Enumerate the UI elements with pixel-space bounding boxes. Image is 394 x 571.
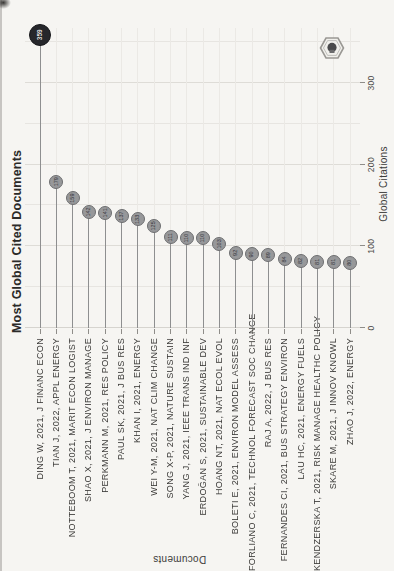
value-gridline (25, 82, 360, 83)
value-gridline (25, 123, 360, 124)
doc-label: PAUL SK, 2021, J BUS RES (116, 338, 126, 571)
doc-label: WEI Y-M, 2021, NAT CLIM CHANGE (149, 338, 159, 571)
hexagon-logo (319, 35, 345, 61)
x-axis-label: Global Citations (378, 146, 389, 221)
lollipop-stem (350, 263, 351, 328)
doc-label: SONG X-P, 2021, NATURE SUSTAIN (165, 338, 175, 571)
doc-label: FORLIANO C, 2021, TECHNOL FORECAST SOC C… (247, 338, 257, 571)
category-tick (56, 329, 57, 334)
doc-label: DING W, 2021, J FINANC ECON (35, 338, 45, 571)
doc-label: PERKMANN M, 2021, RES POLICY (100, 338, 110, 571)
lollipop-stem (72, 198, 73, 328)
doc-label: FERNANDES CI, 2021, BUS STRATEGY ENVIRON (279, 338, 289, 571)
citation-dot: 92 (229, 246, 243, 260)
category-tick (333, 329, 334, 334)
value-tick-label: 300 (366, 75, 376, 90)
lollipop-stem (203, 238, 204, 328)
category-tick (301, 329, 302, 334)
doc-label: ZHAO J, 2022, ENERGY (345, 338, 355, 571)
category-tick (72, 329, 73, 334)
citation-dot: 110 (196, 231, 210, 245)
doc-label: YANG J, 2021, IEEE TRANS IND INF (181, 338, 191, 571)
lollipop-stem (317, 262, 318, 328)
lollipop-stem (88, 212, 89, 328)
citation-dot: 141 (98, 206, 112, 220)
citation-dot: 110 (180, 231, 194, 245)
citation-dot: 111 (164, 230, 178, 244)
value-tick (360, 164, 365, 165)
category-tick (284, 329, 285, 334)
lollipop-stem (284, 259, 285, 328)
lollipop-stem (186, 238, 187, 328)
doc-label: NOTTEBOOM T, 2021, MARIT ECON LOGIST (67, 338, 77, 571)
doc-label: ERDOĞAN S, 2021, SUSTAINABLE DEV (198, 338, 208, 571)
citation-dot: 133 (131, 212, 145, 226)
value-tick (360, 245, 365, 246)
lollipop-stem (154, 226, 155, 328)
value-tick-label: 200 (366, 157, 376, 172)
lollipop-stem (40, 35, 41, 328)
citation-dot: 90 (245, 247, 259, 261)
value-gridline (25, 41, 360, 42)
citation-dot: 89 (261, 248, 275, 262)
lollipop-stem (333, 262, 334, 328)
y-axis-label: Documents (150, 554, 210, 565)
citation-dot: 159 (66, 191, 80, 205)
category-tick (88, 329, 89, 334)
scanned-page: Most Global Cited Documents DING W, 2021… (0, 0, 394, 571)
value-tick (360, 327, 365, 328)
lollipop-stem (170, 237, 171, 328)
lollipop-stem (137, 219, 138, 328)
lollipop-stem (252, 254, 253, 328)
value-tick-label: 0 (366, 325, 376, 330)
category-tick (186, 329, 187, 334)
doc-label: KHAN I, 2021, ENERGY (132, 338, 142, 571)
category-tick (235, 329, 236, 334)
doc-label: RAJ A, 2022, J BUS RES (263, 338, 273, 571)
lollipop-stem (219, 244, 220, 328)
lollipop-stem (268, 255, 269, 328)
category-tick (137, 329, 138, 334)
value-gridline (25, 327, 360, 328)
plot-panel: DING W, 2021, J FINANC ECON359TIAN J, 20… (0, 0, 394, 571)
category-tick (203, 329, 204, 334)
doc-label: LAU HC, 2021, ENERGY FUELS (296, 338, 306, 571)
doc-label: SHAO X, 2021, J ENVIRON MANAGE (83, 338, 93, 571)
doc-label: SKARE M, 2021, J INNOV KNOWL (328, 338, 338, 571)
doc-label: KENDZERSKA T, 2021, RISK MANAGE HEALTHC … (312, 338, 322, 571)
category-tick (170, 329, 171, 334)
citation-dot: 179 (49, 175, 63, 189)
citation-dot: 81 (310, 255, 324, 269)
citation-dot: 137 (115, 209, 129, 223)
citation-dot: 82 (294, 254, 308, 268)
category-tick (105, 329, 106, 334)
lollipop-stem (56, 182, 57, 328)
citation-dot: 81 (327, 255, 341, 269)
doc-label: HOANG NT, 2021, NAT ECOL EVOL (214, 338, 224, 571)
category-tick (121, 329, 122, 334)
category-tick (40, 329, 41, 334)
category-tick (219, 329, 220, 334)
value-gridline (25, 245, 360, 246)
lollipop-stem (121, 216, 122, 328)
lollipop-stem (235, 253, 236, 328)
citation-dot: 125 (147, 219, 161, 233)
value-tick-label: 100 (366, 239, 376, 254)
lollipop-stem (105, 213, 106, 328)
category-tick (268, 329, 269, 334)
scan-corner-artifact (0, 0, 11, 9)
value-gridline (25, 164, 360, 165)
rotated-chart-canvas: Most Global Cited Documents DING W, 2021… (0, 0, 394, 571)
lollipop-stem (301, 261, 302, 328)
category-tick (350, 329, 351, 334)
value-tick (360, 82, 365, 83)
doc-label: BOLETI E, 2021, ENVIRON MODEL ASSESS (230, 338, 240, 571)
citation-dot: 359 (29, 24, 51, 46)
citation-dot: 84 (278, 252, 292, 266)
citation-dot: 80 (343, 256, 357, 270)
doc-label: TIAN J, 2022, APPL ENERGY (51, 338, 61, 571)
category-tick (154, 329, 155, 334)
citation-dot: 103 (212, 237, 226, 251)
citation-dot: 142 (82, 205, 96, 219)
value-gridline (25, 286, 360, 287)
